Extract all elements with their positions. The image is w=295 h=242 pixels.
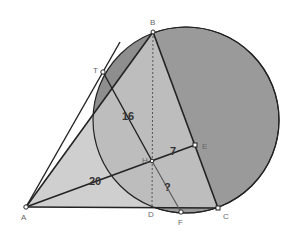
label-d: D (148, 210, 154, 219)
point-f (179, 210, 183, 214)
label-b: B (150, 18, 155, 27)
point-b (151, 30, 155, 34)
length-hf: ? (164, 181, 171, 193)
label-c: C (223, 212, 229, 221)
point-t (101, 70, 105, 74)
label-h: H (142, 156, 148, 165)
length-ah: 20 (89, 175, 101, 187)
point-a (24, 205, 28, 209)
label-e: E (202, 142, 207, 151)
label-t: T (93, 66, 98, 75)
point-c (216, 206, 220, 210)
side-ac (26, 207, 218, 208)
label-a: A (21, 213, 27, 222)
point-e (193, 143, 197, 147)
point-h (150, 159, 154, 163)
label-f: F (178, 218, 183, 227)
length-th: 16 (122, 110, 134, 122)
geometry-diagram: A B C D E F H T 16 20 7 ? (0, 0, 295, 242)
length-he: 7 (170, 145, 176, 157)
